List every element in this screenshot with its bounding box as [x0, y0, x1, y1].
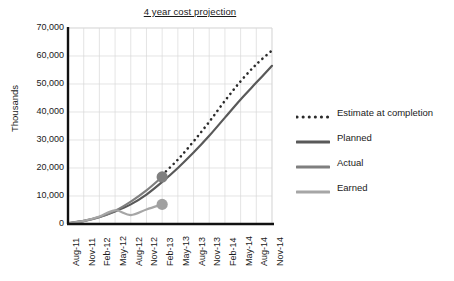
- chart-container: 4 year cost projection Thousands 70,0006…: [0, 0, 454, 281]
- plot-border: [68, 28, 272, 224]
- legend-item[interactable]: Actual: [296, 150, 454, 175]
- legend-solid-line-icon: [296, 158, 330, 168]
- legend: Estimate at completionPlannedActualEarne…: [296, 100, 454, 200]
- axis-lines: [67, 27, 274, 224]
- legend-solid-line-icon: [296, 183, 330, 193]
- legend-dotted-line-icon: [296, 108, 330, 118]
- legend-label: Planned: [337, 133, 372, 143]
- legend-label: Actual: [337, 158, 363, 168]
- series-line: [162, 50, 272, 175]
- legend-item[interactable]: Estimate at completion: [296, 100, 454, 125]
- gridlines: [68, 28, 272, 224]
- legend-label: Earned: [337, 183, 368, 193]
- series-layer: [68, 50, 272, 223]
- legend-solid-line-icon: [296, 133, 330, 143]
- legend-item[interactable]: Planned: [296, 125, 454, 150]
- series-line: [68, 66, 272, 223]
- legend-item[interactable]: Earned: [296, 175, 454, 200]
- data-point-marker: [157, 199, 168, 210]
- data-point-marker: [157, 171, 168, 182]
- legend-label: Estimate at completion: [337, 108, 433, 118]
